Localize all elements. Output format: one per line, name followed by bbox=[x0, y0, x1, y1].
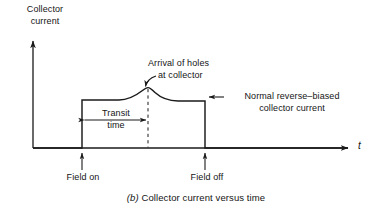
y-axis-label-line2: current bbox=[31, 16, 60, 26]
y-axis-label-line1: Collector bbox=[27, 4, 63, 14]
transit-time-line1: Transit bbox=[102, 108, 130, 118]
arrival-annotation-line2: at collector bbox=[148, 70, 244, 82]
transit-time-line2: time bbox=[107, 120, 124, 130]
normal-reverse-biased-annotation: Normal reverse–biased collector current bbox=[228, 91, 356, 114]
x-axis-label: t bbox=[358, 140, 361, 151]
caption-letter: (b) bbox=[127, 192, 139, 203]
figure-caption: (b) Collector current versus time bbox=[68, 192, 324, 203]
arrival-of-holes-annotation: Arrival of holes at collector bbox=[148, 58, 244, 81]
arrival-annotation-line1: Arrival of holes bbox=[148, 58, 209, 68]
caption-text: Collector current versus time bbox=[141, 192, 265, 203]
field-off-label: Field off bbox=[172, 172, 242, 183]
y-axis-label: Collector current bbox=[9, 4, 81, 27]
figure-collector-current-vs-time: Collector current t Arrival of holes at … bbox=[0, 0, 376, 212]
field-on-label: Field on bbox=[48, 172, 118, 183]
transit-time-label: Transit time bbox=[85, 108, 147, 131]
normal-annotation-line1: Normal reverse–biased bbox=[244, 91, 339, 101]
normal-annotation-line2: collector current bbox=[259, 103, 325, 113]
